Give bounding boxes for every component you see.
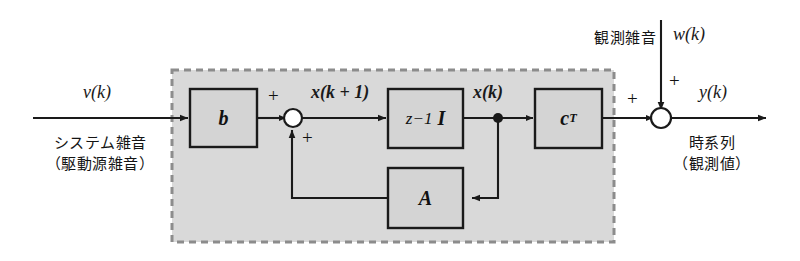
annotation-system-noise: システム雑音 （駆動源雑音） [30, 131, 170, 173]
plus-sum-state-bottom: + [302, 127, 313, 149]
block-delay [388, 89, 463, 148]
block-A [388, 168, 463, 228]
label-input-signal: v(k) [83, 83, 111, 102]
block-c-transpose [535, 89, 602, 148]
plus-sum-state-top: + [268, 85, 279, 107]
annotation-system-noise-line1: システム雑音 [30, 131, 170, 152]
annotation-output-series: 時系列 （観測値） [656, 131, 768, 173]
block-b [190, 89, 257, 147]
summing-junction-output [651, 108, 671, 128]
plus-sum-output-left: + [627, 88, 638, 110]
label-state-next: x(k + 1) [311, 83, 369, 102]
state-tap-node [493, 113, 503, 123]
annotation-output-line2: （観測値） [656, 152, 768, 173]
block-diagram-figure: b z−1I cT A v(k) x(k + 1) x(k) w(k) y(k)… [0, 0, 800, 261]
plus-sum-output-top: + [669, 70, 680, 92]
annotation-system-noise-line2: （駆動源雑音） [30, 152, 170, 173]
annotation-measurement-noise-text: 観測雑音 [560, 26, 656, 47]
label-output-signal: y(k) [699, 83, 727, 102]
annotation-output-line1: 時系列 [656, 131, 768, 152]
summing-junction-state [284, 109, 302, 127]
label-state: x(k) [473, 83, 503, 102]
label-measurement-noise-signal: w(k) [673, 25, 705, 44]
annotation-measurement-noise: 観測雑音 [560, 26, 656, 47]
